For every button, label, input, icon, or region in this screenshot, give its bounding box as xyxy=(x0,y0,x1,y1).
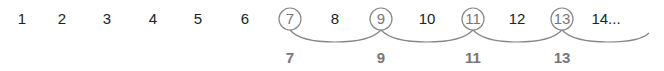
arc-11-to-13 xyxy=(473,30,562,42)
arc-13-onward xyxy=(562,30,649,42)
number-12: 12 xyxy=(509,8,526,30)
result-11: 11 xyxy=(465,47,481,69)
number-7-circled: 7 xyxy=(286,8,294,30)
number-13-circled: 13 xyxy=(554,8,571,30)
number-10: 10 xyxy=(419,8,436,30)
result-9: 9 xyxy=(377,47,385,69)
number-3: 3 xyxy=(103,8,111,30)
arc-9-to-11 xyxy=(381,30,473,42)
number-8: 8 xyxy=(331,8,339,30)
odd-number-skip-diagram: 1 2 3 4 5 6 7 8 9 10 11 12 13 14... 7 9 … xyxy=(0,0,664,71)
number-6: 6 xyxy=(241,8,249,30)
number-5: 5 xyxy=(194,8,202,30)
number-9-circled: 9 xyxy=(377,8,385,30)
number-11-circled: 11 xyxy=(465,8,481,30)
number-14-continues: 14... xyxy=(591,8,620,30)
arc-7-to-9 xyxy=(290,30,381,42)
result-7: 7 xyxy=(286,47,294,69)
number-1: 1 xyxy=(18,8,26,30)
result-13: 13 xyxy=(554,47,571,69)
number-4: 4 xyxy=(149,8,157,30)
number-2: 2 xyxy=(58,8,66,30)
